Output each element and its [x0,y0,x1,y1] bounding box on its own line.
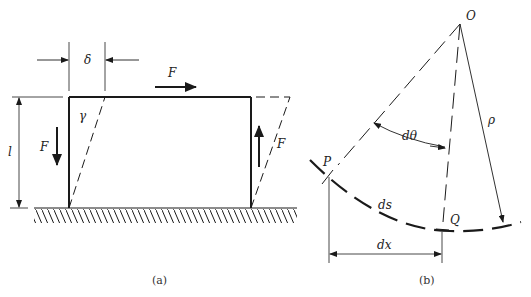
point-p-label: P [322,155,332,169]
dx-label: dx [377,238,392,252]
point-q-label: Q [450,213,460,227]
dtheta-label: dθ [402,129,418,143]
force-top-arrow: F [155,66,196,87]
rho-label: ρ [487,113,495,127]
caption-b: (b) [419,274,435,287]
gamma-label: γ [79,109,87,123]
block-outline [69,97,251,208]
length-label: l [8,145,12,159]
figure-b-curvature: O ρ dθ P Q ds dx (b) [310,9,521,287]
deformed-shape-dashed [69,97,290,208]
delta-label: δ [84,53,91,67]
caption-a: (a) [152,274,167,287]
force-left-label: F [39,140,49,154]
force-top-label: F [167,66,177,80]
length-dimension: l [8,97,63,208]
radius-to-q-dashed [443,24,460,222]
radius-to-p-dashed [338,24,460,165]
curved-beam-arc [310,160,521,231]
ds-label: ds [378,198,392,212]
ground-hatching [34,208,297,223]
delta-dimension: δ [37,42,139,91]
origin-label: O [466,9,476,23]
force-left-arrow: F [39,127,57,165]
rho-radius-arrow [460,24,503,222]
figure-a-shear-block: δ F γ F F [8,42,297,287]
dx-dimension: dx [329,177,442,263]
figure-canvas: δ F γ F F [0,0,531,297]
force-right-arrow: F [259,126,286,167]
force-right-label: F [276,137,286,151]
